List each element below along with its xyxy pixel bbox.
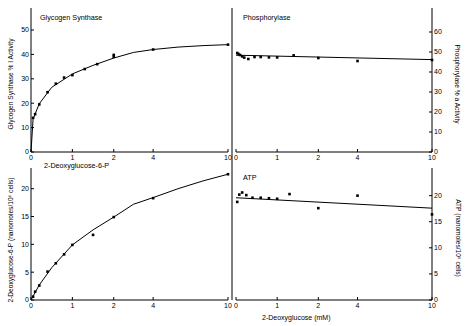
fit-curve-glycogen-synthase [31, 45, 228, 152]
data-point-glycogen-synthase-7 [83, 68, 86, 71]
data-point-atp-11 [431, 213, 434, 216]
data-point-phosphorylase-10 [292, 54, 295, 57]
y-tick-label-phosphorylase-5: 50 [434, 48, 442, 55]
data-point-2-deoxyglucose-6-p-6 [71, 244, 74, 247]
data-point-glycogen-synthase-11 [152, 48, 155, 51]
y-tick-label-phosphorylase-1: 10 [434, 128, 442, 135]
x-tick-label-2-deoxyglucose-6-p-0: 0 [29, 302, 33, 309]
data-point-2-deoxyglucose-6-p-8 [112, 216, 115, 219]
y-tick-label-atp-3: 15 [434, 218, 442, 225]
data-point-atp-9 [317, 207, 320, 210]
x-tick-label-phosphorylase-3: 4 [356, 154, 360, 161]
data-point-glycogen-synthase-0 [32, 117, 35, 120]
x-tick-label-2-deoxyglucose-6-p-3: 4 [151, 302, 155, 309]
data-point-glycogen-synthase-3 [46, 91, 49, 94]
data-point-atp-2 [241, 191, 244, 194]
x-tick-label-glycogen-synthase-3: 4 [151, 154, 155, 161]
x-tick-label-glycogen-synthase-2: 2 [112, 154, 116, 161]
data-point-2-deoxyglucose-6-p-9 [152, 197, 155, 200]
data-point-2-deoxyglucose-6-p-2 [38, 284, 41, 287]
data-point-phosphorylase-6 [253, 56, 256, 59]
x-tick-label-atp-4: 10 [428, 302, 436, 309]
y-tick-label-glycogen-synthase-3: 30 [21, 75, 29, 82]
y-axis-label-atp: ATP (nanomoles/10⁶ cells) [454, 199, 462, 277]
x-tick-label-glycogen-synthase-1: 1 [70, 154, 74, 161]
y-axis-label-2-deoxyglucose-6-p: 2-Deoxyglucose-6-P (nanomoles/10⁶ cells) [7, 177, 15, 302]
x-tick-label-phosphorylase-2: 2 [316, 154, 320, 161]
fit-curve-2-deoxyglucose-6-p [31, 174, 228, 300]
x-tick-label-atp-3: 4 [356, 302, 360, 309]
y-tick-label-2-deoxyglucose-6-p-3: 15 [21, 213, 29, 220]
shared-x-axis-label: 2-Deoxyglucose (mM) [262, 314, 330, 322]
data-point-atp-0 [236, 201, 239, 204]
data-point-phosphorylase-8 [268, 56, 271, 59]
data-point-glycogen-synthase-8 [96, 63, 99, 66]
data-point-atp-5 [259, 196, 262, 199]
x-tick-label-phosphorylase-0: 0 [234, 154, 238, 161]
data-point-2-deoxyglucose-6-p-7 [92, 234, 95, 237]
panel-phosphorylase: 0102030405060012410PhosphorylasePhosphor… [234, 8, 461, 161]
y-tick-label-2-deoxyglucose-6-p-4: 20 [21, 185, 29, 192]
y-tick-label-glycogen-synthase-2: 20 [21, 100, 29, 107]
x-tick-label-atp-1: 1 [275, 302, 279, 309]
y-tick-label-atp-4: 20 [434, 192, 442, 199]
x-tick-label-2-deoxyglucose-6-p-4: 10 [224, 302, 232, 309]
data-point-atp-1 [238, 193, 241, 196]
y-axis-label-glycogen-synthase: Glycogen Synthase % I Activity [7, 38, 15, 130]
panel-title-phosphorylase: Phosphorylase [243, 13, 291, 22]
data-point-2-deoxyglucose-6-p-4 [55, 262, 58, 265]
data-point-phosphorylase-4 [243, 56, 246, 59]
data-point-phosphorylase-13 [431, 59, 434, 62]
data-point-phosphorylase-5 [247, 58, 250, 61]
fit-curve-atp [236, 198, 432, 208]
data-point-atp-6 [268, 197, 271, 200]
panel-2-deoxyglucose-6-p: 051015200124102-Deoxyglucose-6-P2-Deoxyg… [7, 161, 232, 309]
panel-title-atp: ATP [243, 173, 257, 182]
x-tick-label-phosphorylase-1: 1 [275, 154, 279, 161]
data-point-2-deoxyglucose-6-p-0 [32, 295, 35, 298]
panel-title-2-deoxyglucose-6-p: 2-Deoxyglucose-6-P [44, 161, 109, 170]
data-point-glycogen-synthase-4 [55, 82, 58, 85]
data-point-glycogen-synthase-10 [112, 54, 115, 57]
data-point-glycogen-synthase-2 [38, 103, 41, 106]
panel-glycogen-synthase: 01020304050012410Glycogen SynthaseGlycog… [7, 8, 232, 161]
data-point-2-deoxyglucose-6-p-10 [227, 173, 230, 176]
x-tick-label-2-deoxyglucose-6-p-2: 2 [112, 302, 116, 309]
data-point-atp-4 [251, 196, 254, 199]
y-axis-label-phosphorylase: Phosphorylase % a Activity [453, 44, 461, 124]
data-point-phosphorylase-12 [356, 60, 359, 63]
data-point-glycogen-synthase-1 [34, 113, 37, 116]
y-tick-label-2-deoxyglucose-6-p-1: 5 [25, 269, 29, 276]
data-point-phosphorylase-11 [317, 57, 320, 60]
y-tick-label-glycogen-synthase-5: 50 [21, 26, 29, 33]
y-tick-label-glycogen-synthase-4: 40 [21, 51, 29, 58]
data-point-2-deoxyglucose-6-p-1 [34, 290, 37, 293]
figure-panel-grid: 01020304050012410Glycogen SynthaseGlycog… [0, 0, 469, 326]
panel-atp: 05101520012410ATPATP (nanomoles/10⁶ cell… [234, 168, 462, 309]
panel-title-glycogen-synthase: Glycogen Synthase [40, 13, 102, 22]
y-tick-label-phosphorylase-2: 20 [434, 108, 442, 115]
y-tick-label-phosphorylase-6: 60 [434, 28, 442, 35]
data-point-phosphorylase-9 [276, 56, 279, 59]
data-point-2-deoxyglucose-6-p-5 [63, 253, 66, 256]
x-tick-label-2-deoxyglucose-6-p-1: 1 [70, 302, 74, 309]
x-tick-label-glycogen-synthase-0: 0 [29, 154, 33, 161]
fit-curve-phosphorylase [236, 55, 432, 59]
data-point-glycogen-synthase-6 [71, 74, 74, 77]
y-tick-label-phosphorylase-3: 30 [434, 88, 442, 95]
data-point-atp-8 [288, 193, 291, 196]
y-tick-label-phosphorylase-4: 40 [434, 68, 442, 75]
y-tick-label-atp-2: 10 [434, 244, 442, 251]
y-tick-label-glycogen-synthase-1: 10 [21, 124, 29, 131]
data-point-phosphorylase-7 [259, 56, 262, 59]
figure-svg: 01020304050012410Glycogen SynthaseGlycog… [0, 0, 469, 326]
data-point-atp-7 [276, 197, 279, 200]
data-point-glycogen-synthase-12 [227, 43, 230, 46]
data-point-atp-3 [245, 194, 248, 197]
data-point-glycogen-synthase-5 [63, 76, 66, 79]
data-point-2-deoxyglucose-6-p-3 [46, 270, 49, 273]
y-tick-label-atp-1: 5 [434, 270, 438, 277]
x-tick-label-glycogen-synthase-4: 10 [224, 154, 232, 161]
x-tick-label-phosphorylase-4: 10 [428, 154, 436, 161]
y-tick-label-2-deoxyglucose-6-p-2: 10 [21, 241, 29, 248]
